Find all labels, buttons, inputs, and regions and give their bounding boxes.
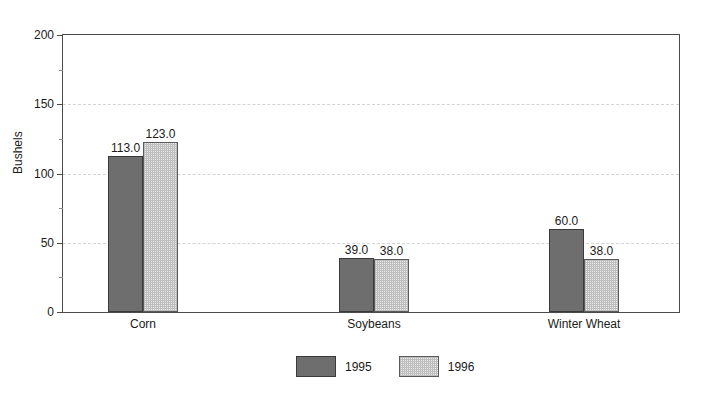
bar-corn-1995: 113.0	[108, 156, 143, 313]
y-axis-tick	[57, 312, 63, 313]
bar-corn-1996: 123.0	[143, 142, 178, 312]
bar-value-label: 38.0	[590, 245, 613, 257]
bar-chart: Bushels 050100150200113.0123.0Corn39.038…	[0, 0, 701, 399]
legend-label-1995: 1995	[345, 361, 372, 373]
x-axis-category-label: Winter Wheat	[548, 318, 621, 330]
bar-value-label: 39.0	[345, 244, 368, 256]
y-axis-tick-label: 50	[41, 237, 54, 249]
bar-value-label: 60.0	[555, 215, 578, 227]
y-axis-minor-tick	[59, 277, 63, 278]
y-axis-tick-label: 100	[34, 168, 54, 180]
legend-swatch-1996	[399, 356, 439, 377]
bar-winter-wheat-1995: 60.0	[549, 229, 584, 312]
gridline	[63, 104, 679, 105]
y-axis-tick-label: 0	[47, 306, 54, 318]
legend-swatch-1995	[296, 356, 336, 377]
bar-soybeans-1995: 39.0	[339, 258, 374, 312]
chart-legend: 19951996	[296, 356, 474, 377]
bar-value-label: 123.0	[145, 128, 175, 140]
bar-winter-wheat-1996: 38.0	[584, 259, 619, 312]
bar-soybeans-1996: 38.0	[374, 259, 409, 312]
legend-item-1996[interactable]: 1996	[399, 356, 475, 377]
bar-value-label: 38.0	[380, 245, 403, 257]
y-axis-tick	[57, 35, 63, 36]
y-axis-tick	[57, 104, 63, 105]
bar-value-label: 113.0	[111, 142, 140, 154]
plot-area: 050100150200113.0123.0Corn39.038.0Soybea…	[62, 34, 680, 313]
legend-label-1996: 1996	[448, 361, 475, 373]
x-axis-category-label: Corn	[130, 318, 156, 330]
y-axis-minor-tick	[59, 70, 63, 71]
y-axis-minor-tick	[59, 139, 63, 140]
y-axis-tick	[57, 174, 63, 175]
y-axis-tick	[57, 243, 63, 244]
y-axis-tick-label: 150	[34, 98, 54, 110]
legend-item-1995[interactable]: 1995	[296, 356, 399, 377]
x-axis-category-label: Soybeans	[347, 318, 400, 330]
y-axis-minor-tick	[59, 208, 63, 209]
y-axis-tick-label: 200	[34, 29, 54, 41]
y-axis-title: Bushels	[12, 131, 24, 174]
